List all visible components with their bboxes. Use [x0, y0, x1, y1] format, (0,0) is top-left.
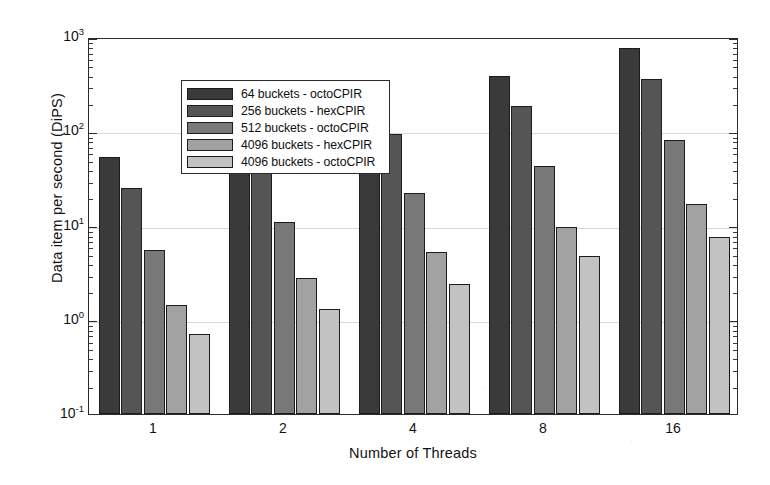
legend-color-swatch: [187, 156, 233, 168]
y-axis-minor-tick: [733, 105, 737, 106]
y-axis-minor-tick: [733, 388, 737, 389]
legend-color-swatch: [187, 88, 233, 100]
y-axis-minor-tick: [733, 54, 737, 55]
y-axis-minor-tick: [89, 54, 93, 55]
y-axis-major-tick: [89, 227, 97, 228]
y-axis-minor-tick: [733, 88, 737, 89]
y-axis-minor-tick: [89, 326, 93, 327]
bar: [449, 284, 470, 414]
y-axis-minor-tick: [89, 265, 93, 266]
legend-item[interactable]: 4096 buckets - hexCPIR: [187, 136, 384, 153]
y-axis-minor-tick: [89, 293, 93, 294]
y-axis-tick-label: 103: [63, 29, 84, 43]
y-axis-minor-tick: [733, 171, 737, 172]
x-axis-tick-label: 4: [409, 420, 417, 436]
y-axis-minor-tick: [89, 248, 93, 249]
y-axis-minor-tick: [733, 67, 737, 68]
legend-item-label: 4096 buckets - octoCPIR: [241, 155, 375, 169]
y-axis-minor-tick: [733, 331, 737, 332]
bar: [426, 252, 447, 415]
y-axis-major-tick: [89, 321, 97, 322]
y-axis-tick-label: 100: [63, 312, 84, 326]
bar: [319, 309, 340, 414]
y-axis-minor-tick: [89, 183, 93, 184]
y-axis-minor-tick: [733, 242, 737, 243]
y-axis-minor-tick: [89, 237, 93, 238]
bar: [686, 204, 707, 414]
legend-item[interactable]: 64 buckets - octoCPIR: [187, 85, 384, 102]
y-axis-minor-tick: [89, 277, 93, 278]
y-axis-minor-tick: [733, 77, 737, 78]
bar: [404, 193, 425, 414]
bar: [166, 305, 187, 414]
y-axis-minor-tick: [733, 326, 737, 327]
chart-legend: 64 buckets - octoCPIR256 buckets - hexCP…: [181, 80, 390, 174]
y-axis-minor-tick: [733, 350, 737, 351]
bar: [121, 188, 142, 414]
bar: [251, 161, 272, 414]
legend-item-label: 4096 buckets - hexCPIR: [241, 138, 372, 152]
y-axis-minor-tick: [89, 199, 93, 200]
y-axis-minor-tick: [89, 77, 93, 78]
legend-item[interactable]: 512 buckets - octoCPIR: [187, 119, 384, 136]
bar: [296, 278, 317, 414]
y-axis-minor-tick: [733, 183, 737, 184]
y-axis-minor-tick: [733, 248, 737, 249]
y-axis-minor-tick: [89, 336, 93, 337]
bar: [556, 227, 577, 414]
bar: [381, 134, 402, 414]
x-axis-label: Number of Threads: [88, 445, 738, 461]
y-axis-minor-tick: [89, 88, 93, 89]
legend-item[interactable]: 4096 buckets - octoCPIR: [187, 153, 384, 170]
legend-item-label: 64 buckets - octoCPIR: [241, 87, 362, 101]
y-axis-minor-tick: [89, 105, 93, 106]
y-axis-minor-tick: [733, 154, 737, 155]
y-axis-minor-tick: [733, 148, 737, 149]
y-axis-minor-tick: [89, 60, 93, 61]
y-axis-minor-tick: [89, 331, 93, 332]
y-axis-minor-tick: [733, 265, 737, 266]
plot-area: 64 buckets - octoCPIR256 buckets - hexCP…: [88, 38, 738, 415]
bar: [619, 48, 640, 414]
y-axis-minor-tick: [733, 142, 737, 143]
legend-color-swatch: [187, 139, 233, 151]
y-axis-minor-tick: [733, 48, 737, 49]
y-axis-minor-tick: [89, 171, 93, 172]
y-axis-minor-tick: [89, 343, 93, 344]
bar: [709, 237, 730, 414]
y-axis-minor-tick: [89, 242, 93, 243]
bar: [664, 140, 685, 414]
legend-item-label: 512 buckets - octoCPIR: [241, 121, 369, 135]
y-axis-minor-tick: [89, 256, 93, 257]
y-axis-minor-tick: [733, 162, 737, 163]
y-axis-tick-label: 102: [63, 123, 84, 137]
bar: [579, 256, 600, 414]
y-axis-minor-tick: [89, 162, 93, 163]
y-axis-minor-tick: [733, 293, 737, 294]
y-axis-minor-tick: [733, 138, 737, 139]
y-axis-minor-tick: [89, 154, 93, 155]
bar: [489, 76, 510, 414]
y-axis-minor-tick: [733, 199, 737, 200]
y-axis-major-tick: [89, 133, 97, 134]
bar: [189, 334, 210, 414]
y-axis-minor-tick: [733, 256, 737, 257]
figure-canvas: Data item per second (DiPS) Number of Th…: [0, 0, 770, 485]
y-axis-minor-tick: [89, 148, 93, 149]
legend-color-swatch: [187, 122, 233, 134]
bar: [274, 222, 295, 414]
y-axis-minor-tick: [733, 343, 737, 344]
y-axis-minor-tick: [733, 43, 737, 44]
x-axis-tick-label: 8: [539, 420, 547, 436]
bar: [144, 250, 165, 414]
legend-color-swatch: [187, 105, 233, 117]
bar: [511, 106, 532, 414]
bar: [99, 157, 120, 414]
y-axis-tick-label: 101: [63, 218, 84, 232]
y-axis-major-tick: [729, 38, 737, 39]
y-axis-major-tick: [729, 133, 737, 134]
y-axis-minor-tick: [733, 336, 737, 337]
y-axis-minor-tick: [733, 60, 737, 61]
y-axis-minor-tick: [89, 350, 93, 351]
legend-item[interactable]: 256 buckets - hexCPIR: [187, 102, 384, 119]
